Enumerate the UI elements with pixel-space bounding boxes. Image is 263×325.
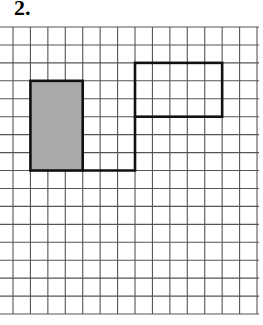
grid-diagram [0, 0, 263, 325]
shaded-rectangle [30, 81, 82, 171]
outlined-rectangle [135, 63, 222, 117]
connector-path [83, 117, 135, 171]
